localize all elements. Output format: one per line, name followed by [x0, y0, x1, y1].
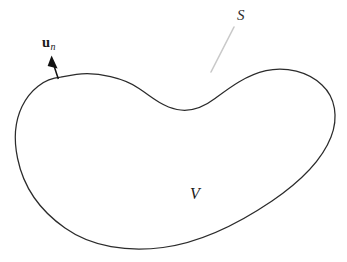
closed-surface-outline — [15, 69, 335, 249]
volume-label: V — [190, 186, 200, 202]
normal-vector-symbol: u — [42, 34, 50, 50]
figure-container: un S V — [0, 0, 347, 262]
normal-vector-subscript: n — [51, 41, 56, 52]
normal-vector-label: un — [42, 35, 55, 50]
surface-label: S — [237, 8, 245, 23]
surface-leader-line — [211, 27, 234, 72]
normal-vector-arrow-head — [48, 56, 58, 69]
